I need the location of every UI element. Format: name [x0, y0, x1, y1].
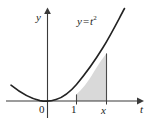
y-axis-arrowhead-icon	[44, 8, 51, 15]
equation-exponent: 2	[93, 14, 97, 22]
parabola-curve	[11, 9, 125, 102]
y-axis-label: y	[36, 12, 41, 23]
figure-container: y t 0 1 x y=t2	[0, 0, 151, 127]
equation-left-var: y	[77, 15, 82, 27]
t-axis-label: t	[140, 104, 143, 115]
equation-equals-sign: =	[83, 15, 89, 27]
tick-label-one: 1	[71, 104, 77, 115]
origin-label: 0	[39, 104, 45, 115]
tick-label-x: x	[101, 105, 106, 116]
shaded-area-under-curve	[77, 53, 107, 101]
curve-equation-label: y=t2	[77, 15, 97, 27]
